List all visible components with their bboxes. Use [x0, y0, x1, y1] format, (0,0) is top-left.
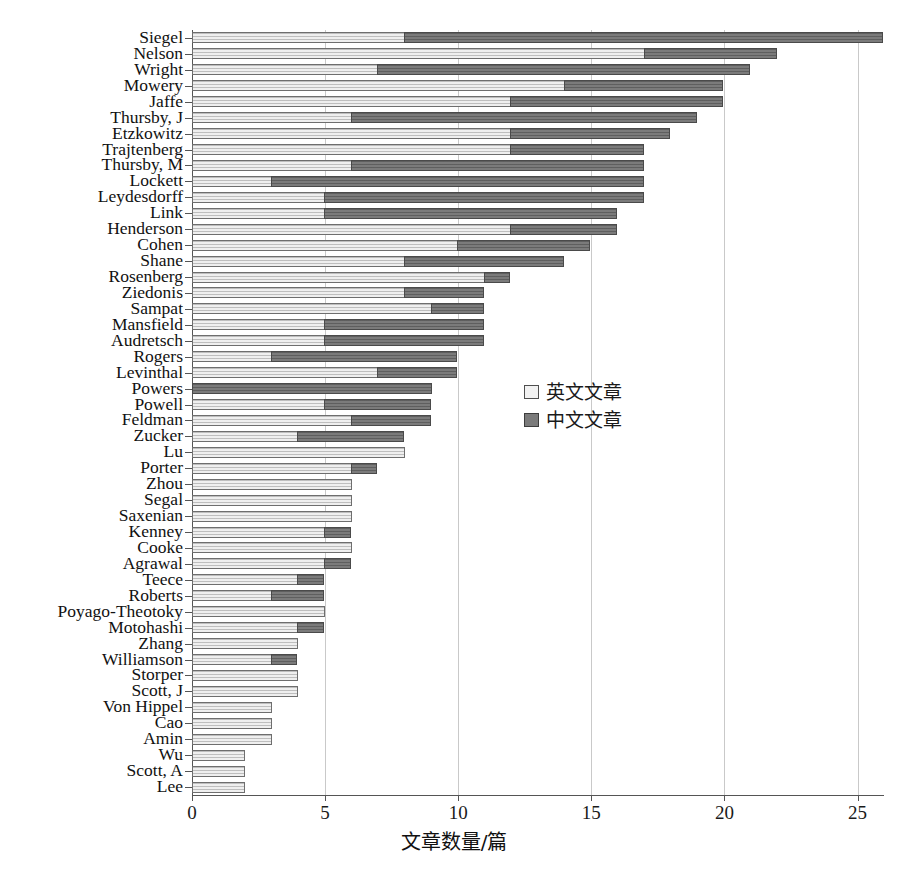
bar-segment-english	[192, 80, 565, 91]
y-tick-mark	[185, 293, 192, 294]
bar-segment-english	[192, 128, 511, 139]
bar-powers	[192, 383, 432, 394]
bar-segment-chinese	[297, 574, 324, 585]
y-tick-mark	[185, 452, 192, 453]
bar-leydesdorff	[192, 192, 644, 203]
bar-segment-chinese	[457, 240, 590, 251]
bar-segment-chinese	[404, 32, 883, 43]
x-axis-line	[192, 795, 884, 796]
bar-segment-english	[192, 112, 352, 123]
x-tick-mark-0	[192, 795, 193, 801]
bar-agrawal	[192, 558, 351, 569]
bar-trajtenberg	[192, 144, 644, 155]
x-axis-title: 文章数量/篇	[0, 826, 908, 855]
bar-segment-english	[192, 64, 378, 75]
bar-zucker	[192, 431, 404, 442]
bar-mansfield	[192, 319, 484, 330]
bar-segment-english	[192, 638, 298, 649]
bar-segment-chinese	[510, 128, 670, 139]
bar-segment-english	[192, 272, 485, 283]
bar-segment-english	[192, 495, 352, 506]
bar-siegel	[192, 32, 883, 43]
bar-poyago-theotoky	[192, 606, 325, 617]
bar-segment-english	[192, 32, 405, 43]
x-tick-label-20: 20	[715, 802, 734, 824]
y-tick-mark	[185, 70, 192, 71]
y-tick-mark	[185, 357, 192, 358]
bar-segment-english	[192, 48, 645, 59]
bar-segment-english	[192, 224, 511, 235]
bar-williamson	[192, 654, 297, 665]
bar-roberts	[192, 590, 324, 601]
bar-segment-chinese	[271, 351, 457, 362]
bar-segment-chinese	[351, 112, 697, 123]
bar-segment-chinese	[271, 590, 324, 601]
bar-jaffe	[192, 96, 723, 107]
y-tick-mark	[185, 86, 192, 87]
bar-rogers	[192, 351, 457, 362]
y-tick-mark	[185, 723, 192, 724]
bar-segment-english	[192, 319, 325, 330]
bar-scott-a	[192, 766, 245, 777]
y-tick-mark	[185, 261, 192, 262]
bar-segment-english	[192, 479, 352, 490]
y-tick-mark	[185, 405, 192, 406]
bar-segment-english	[192, 750, 245, 761]
bar-segment-english	[192, 702, 272, 713]
bar-segment-english	[192, 240, 458, 251]
y-tick-mark	[185, 181, 192, 182]
bar-segment-chinese	[351, 160, 644, 171]
bar-segment-chinese	[644, 48, 777, 59]
bar-zhang	[192, 638, 298, 649]
y-tick-mark	[185, 373, 192, 374]
bar-segment-english	[192, 782, 245, 793]
bar-segment-chinese	[324, 192, 643, 203]
y-tick-mark	[185, 532, 192, 533]
bar-cooke	[192, 542, 352, 553]
x-tick-mark-15	[591, 795, 592, 801]
bar-lee	[192, 782, 245, 793]
x-tick-label-15: 15	[582, 802, 601, 824]
category-labels-column: SiegelNelsonWrightMoweryJaffeThursby, JE…	[0, 30, 183, 795]
y-tick-mark	[185, 771, 192, 772]
y-tick-mark	[185, 468, 192, 469]
bar-segment-english	[192, 160, 352, 171]
y-tick-mark	[185, 500, 192, 501]
bar-cao	[192, 718, 272, 729]
bar-segment-chinese	[377, 367, 457, 378]
y-tick-mark	[185, 644, 192, 645]
bar-segment-english	[192, 574, 298, 585]
bar-segment-chinese	[271, 176, 644, 187]
bar-segment-english	[192, 463, 352, 474]
bar-segment-english	[192, 606, 325, 617]
bar-thursby-j	[192, 112, 697, 123]
bar-segment-english	[192, 96, 511, 107]
bar-segment-chinese	[271, 654, 298, 665]
y-tick-mark	[185, 548, 192, 549]
bar-saxenian	[192, 511, 352, 522]
y-tick-mark	[185, 436, 192, 437]
y-tick-mark	[185, 325, 192, 326]
y-tick-mark	[185, 102, 192, 103]
bar-segment-chinese	[510, 224, 616, 235]
bar-segment-english	[192, 590, 272, 601]
bar-segment-chinese	[192, 383, 432, 394]
bar-shane	[192, 256, 564, 267]
bar-levinthal	[192, 367, 457, 378]
bar-audretsch	[192, 335, 484, 346]
bar-link	[192, 208, 617, 219]
bar-porter	[192, 463, 377, 474]
x-tick-mark-5	[325, 795, 326, 801]
bar-segment-chinese	[324, 335, 484, 346]
bar-segment-english	[192, 718, 272, 729]
x-tick-label-10: 10	[449, 802, 468, 824]
x-tick-mark-10	[458, 795, 459, 801]
bar-segment-chinese	[297, 431, 403, 442]
legend-swatch-english-icon	[524, 385, 539, 399]
bar-scott-j	[192, 686, 298, 697]
y-tick-mark	[185, 787, 192, 788]
bar-segment-english	[192, 766, 245, 777]
bar-amin	[192, 734, 272, 745]
y-tick-mark	[185, 739, 192, 740]
x-tick-label-0: 0	[187, 802, 197, 824]
